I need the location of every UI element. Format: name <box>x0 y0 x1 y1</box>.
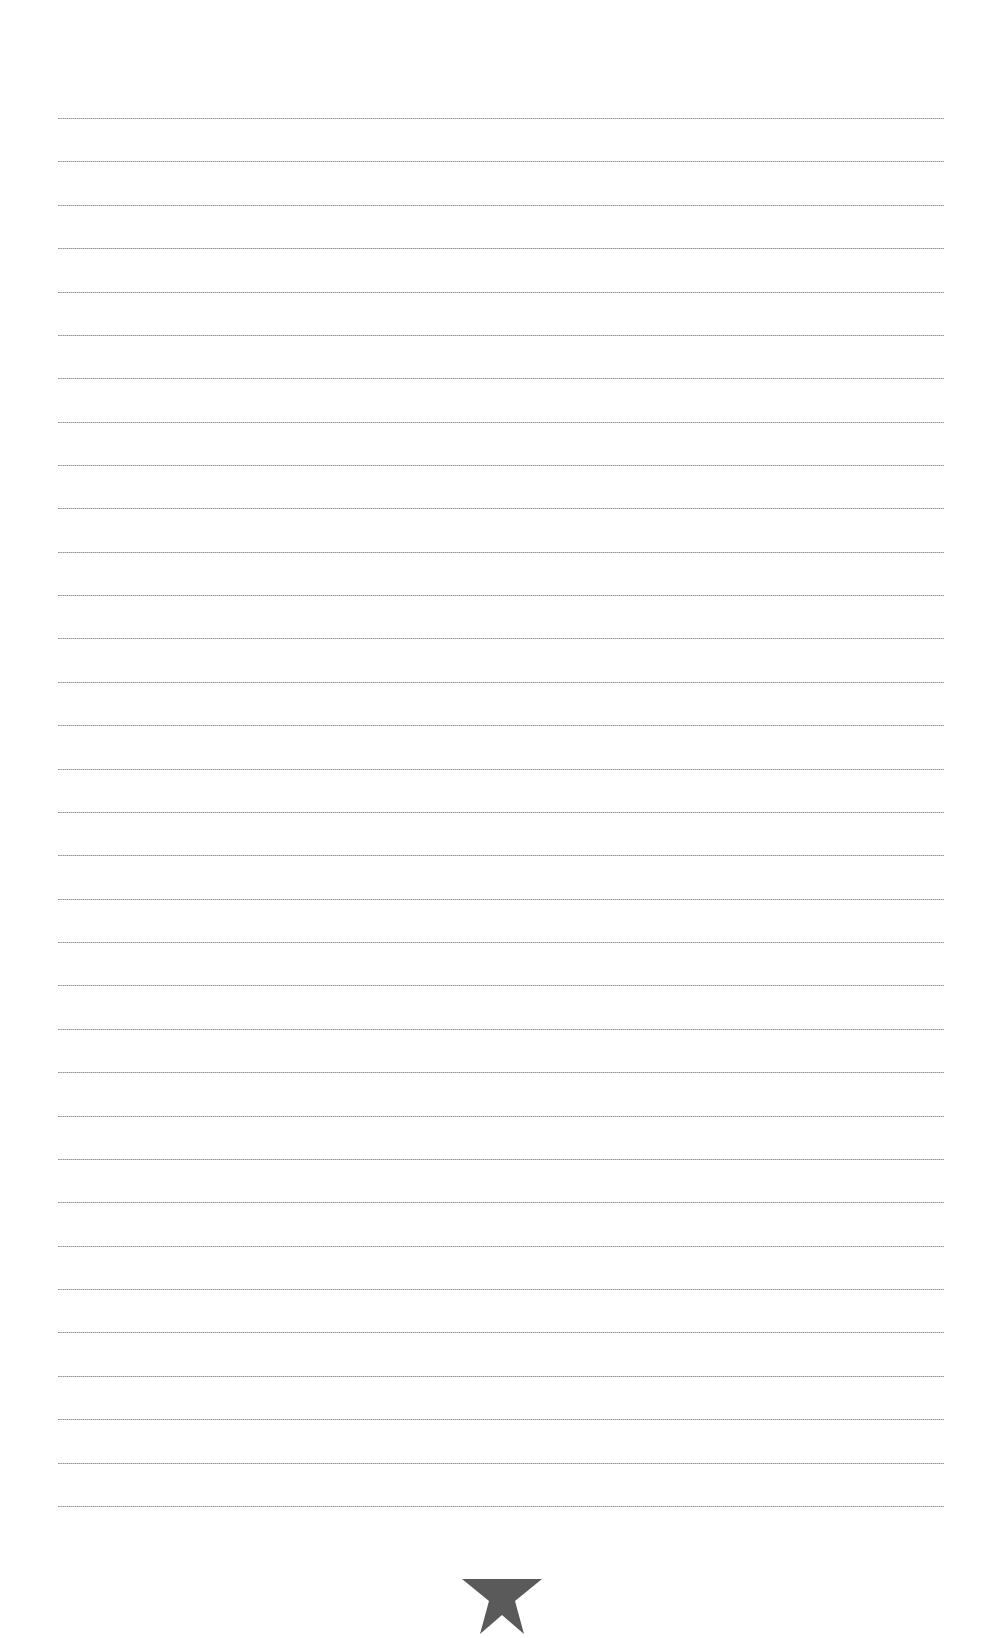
ruled-line <box>58 335 944 336</box>
ruled-line <box>58 1202 944 1203</box>
ruled-line <box>58 812 944 813</box>
ruled-line <box>58 248 944 249</box>
ruled-line <box>58 682 944 683</box>
ruled-line <box>58 292 944 293</box>
ruled-line <box>58 769 944 770</box>
ruled-line <box>58 595 944 596</box>
ruled-line <box>58 1116 944 1117</box>
ruled-line <box>58 855 944 856</box>
ruled-line <box>58 899 944 900</box>
ruled-line <box>58 1463 944 1464</box>
ruled-line <box>58 942 944 943</box>
ruled-line <box>58 985 944 986</box>
ruled-line <box>58 638 944 639</box>
ruled-line <box>58 205 944 206</box>
ruled-line <box>58 1246 944 1247</box>
ruled-line <box>58 1376 944 1377</box>
ruled-line <box>58 1072 944 1073</box>
lined-paper-page <box>0 0 997 1638</box>
ruled-line <box>58 378 944 379</box>
star-icon <box>462 1579 542 1634</box>
ruled-line <box>58 465 944 466</box>
ruled-line <box>58 552 944 553</box>
ruled-line <box>58 1506 944 1507</box>
ruled-line <box>58 1332 944 1333</box>
ruled-line <box>58 422 944 423</box>
ruled-line <box>58 1289 944 1290</box>
ruled-line <box>58 118 944 119</box>
ruled-line <box>58 1159 944 1160</box>
ruled-line <box>58 1029 944 1030</box>
ruled-line <box>58 725 944 726</box>
ruled-line <box>58 161 944 162</box>
ruled-line <box>58 1419 944 1420</box>
ruled-line <box>58 508 944 509</box>
